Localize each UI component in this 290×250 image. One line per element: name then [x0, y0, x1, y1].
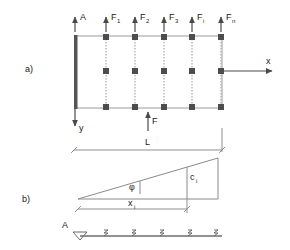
- y-axis-label: y: [79, 123, 84, 133]
- load-arrow-A: A: [75, 12, 86, 32]
- bottom-load-arrow-F: F: [148, 112, 158, 131]
- beam-hatch-3: [160, 230, 164, 236]
- deflection-triangle: φ c i: [78, 158, 218, 199]
- column-3-node-mid: [161, 68, 167, 74]
- column-4-node-bottom: [189, 104, 195, 110]
- load-label-Fi-subscript: i: [203, 18, 204, 24]
- ci-label-subscript: i: [196, 178, 197, 184]
- beam-hatch-2: [132, 230, 136, 236]
- y-axis: y: [75, 109, 84, 133]
- beam-hatch-5: [214, 230, 218, 236]
- beam-hatch-1: [104, 230, 108, 236]
- beam-frame: [74, 35, 222, 109]
- load-label-Fn-subscript: n: [232, 18, 235, 24]
- beam-hatch-marks: [104, 230, 218, 236]
- ci-label: c: [190, 172, 195, 182]
- figure-canvas: a) A F 1 F 2 F 3: [0, 0, 290, 250]
- load-arrow-F3: F 3: [164, 12, 179, 32]
- figure-root: a) A F 1 F 2 F 3: [0, 0, 290, 250]
- load-label-F3-subscript: 3: [175, 18, 179, 24]
- x-axis: x: [222, 56, 272, 71]
- column-1-node-bottom: [103, 104, 109, 110]
- angle-phi-label: φ: [129, 182, 135, 192]
- column-5-node-bottom: [218, 104, 224, 110]
- support-beam: A: [62, 220, 222, 240]
- column-5: [218, 34, 224, 110]
- load-label-F1-subscript: 1: [117, 18, 121, 24]
- dimension-xi-label-subscript: i: [134, 204, 135, 210]
- top-load-arrows: A F 1 F 2 F 3 F: [75, 12, 235, 32]
- columns-group: [103, 34, 224, 110]
- load-label-A: A: [80, 12, 86, 22]
- column-1-node-mid: [103, 68, 109, 74]
- column-2-node-mid: [132, 68, 138, 74]
- column-3-node-top: [161, 34, 167, 40]
- dimension-xi-label: x: [128, 198, 133, 208]
- load-arrow-Fi: F i: [192, 12, 204, 32]
- column-3-node-bottom: [161, 104, 167, 110]
- load-label-F2-subscript: 2: [146, 18, 150, 24]
- dimension-L-label: L: [145, 137, 150, 147]
- column-5-node-top: [218, 34, 224, 40]
- column-2-node-top: [132, 34, 138, 40]
- column-4: [189, 34, 195, 110]
- panel-b-label: b): [22, 194, 30, 204]
- dimension-L: L: [74, 128, 222, 152]
- support-point-label-A: A: [62, 220, 68, 230]
- load-arrow-F2: F 2: [135, 12, 150, 32]
- x-axis-label: x: [266, 56, 271, 66]
- column-1: [103, 34, 109, 110]
- panel-a-label: a): [25, 64, 33, 74]
- column-2: [132, 34, 138, 110]
- bottom-load-label-F: F: [152, 116, 158, 126]
- load-arrow-Fn: F n: [221, 12, 235, 32]
- column-2-node-bottom: [132, 104, 138, 110]
- fixed-wall: [74, 35, 78, 109]
- load-arrow-F1: F 1: [106, 12, 121, 32]
- column-4-node-top: [189, 34, 195, 40]
- dimension-xi: x i: [78, 198, 187, 213]
- column-4-node-mid: [189, 68, 195, 74]
- column-3: [161, 34, 167, 110]
- column-1-node-top: [103, 34, 109, 40]
- beam-hatch-4: [188, 230, 192, 236]
